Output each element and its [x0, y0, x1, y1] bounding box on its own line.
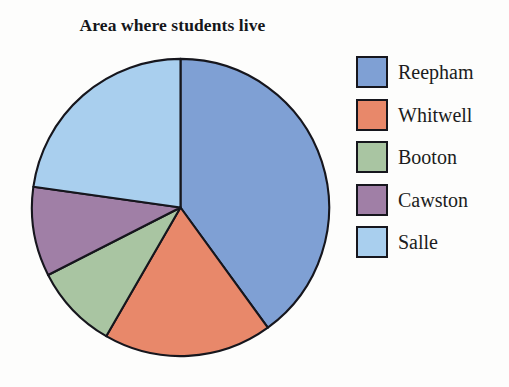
- legend-label: Whitwell: [398, 105, 472, 125]
- legend-label: Reepham: [398, 62, 474, 82]
- legend-item[interactable]: Reepham: [356, 55, 506, 89]
- legend-swatch-cawston: [356, 184, 388, 216]
- pie-chart-svg: [29, 56, 332, 359]
- legend-item[interactable]: Cawston: [356, 183, 506, 217]
- pie-chart: [29, 56, 332, 359]
- legend-item[interactable]: Booton: [356, 140, 506, 174]
- chart-figure: Area where students live ReephamWhitwell…: [0, 0, 509, 387]
- legend-label: Salle: [398, 232, 438, 252]
- legend-item[interactable]: Salle: [356, 225, 506, 259]
- legend-swatch-salle: [356, 226, 388, 258]
- pie-slice-salle: [33, 59, 180, 208]
- legend-swatch-booton: [356, 141, 388, 173]
- pie-slice-group: [32, 59, 329, 356]
- legend-label: Booton: [398, 147, 457, 167]
- page-title: Area where students live: [0, 15, 345, 36]
- legend-item[interactable]: Whitwell: [356, 98, 506, 132]
- legend-swatch-whitwell: [356, 99, 388, 131]
- legend-label: Cawston: [398, 190, 468, 210]
- legend: ReephamWhitwellBootonCawstonSalle: [356, 55, 506, 259]
- legend-swatch-reepham: [356, 56, 388, 88]
